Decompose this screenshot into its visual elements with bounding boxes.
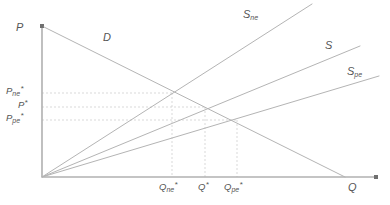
price-ne-subscript: ne <box>12 90 20 97</box>
demand-curve <box>44 27 345 177</box>
x-axis-arrow-icon <box>374 175 378 179</box>
supply-ne-curve <box>42 4 312 177</box>
quantity-ne-subscript: ne <box>166 186 174 193</box>
y-axis-label: P <box>16 22 23 33</box>
price-star-base: P <box>18 99 24 110</box>
demand-curve-label: D <box>103 32 111 43</box>
curves <box>42 4 379 177</box>
price-ne-star: * <box>21 84 24 93</box>
x-axis-label: Q <box>348 182 357 193</box>
price-star-tick-label: P* <box>18 100 27 110</box>
price-pe-star: * <box>21 111 24 120</box>
chart-canvas <box>0 0 390 205</box>
y-axis-arrow-icon <box>40 24 44 28</box>
supply-ne-curve-label: Sne <box>243 9 258 20</box>
quantity-pe-star: * <box>240 180 243 189</box>
supply-demand-externality-chart: P Q D Sne S Spe Pne* P* Ppe* Qne* Q* Qpe… <box>0 0 390 205</box>
supply-pe-curve <box>42 76 379 177</box>
quantity-ne-tick-label: Qne* <box>159 182 177 192</box>
quantity-star-base: Q <box>198 181 205 192</box>
guide-lines <box>42 93 237 177</box>
quantity-pe-subscript: pe <box>231 186 239 193</box>
quantity-star-star: * <box>206 180 209 189</box>
price-ne-tick-label: Pne* <box>6 86 23 96</box>
supply-curve <box>42 46 360 177</box>
quantity-star-tick-label: Q* <box>198 182 209 192</box>
price-pe-subscript: pe <box>12 117 20 124</box>
supply-pe-curve-label: Spe <box>347 66 362 77</box>
price-pe-tick-label: Ppe* <box>6 113 23 123</box>
supply-pe-label-subscript: pe <box>354 71 362 78</box>
quantity-pe-tick-label: Qpe* <box>224 182 242 192</box>
supply-ne-label-subscript: ne <box>250 14 258 21</box>
quantity-ne-star: * <box>175 180 178 189</box>
price-star-star: * <box>25 98 28 107</box>
supply-curve-label: S <box>325 40 332 51</box>
